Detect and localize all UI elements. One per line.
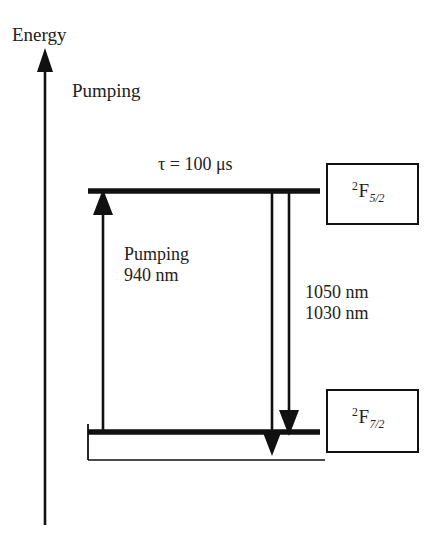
- pump-transition-label-line2: 940 nm: [124, 265, 189, 286]
- emission-wavelengths-label: 1050 nm 1030 nm: [305, 282, 369, 324]
- energy-level-diagram: Energy Pumping τ = 100 μs Pumping 940 nm…: [0, 0, 444, 541]
- emission-wavelength-1030-label: 1030 nm: [305, 303, 369, 324]
- pump-transition-label-line1: Pumping: [124, 244, 189, 264]
- lower-level-term-subscript: 7/2: [369, 418, 384, 431]
- diagram-canvas: [0, 0, 444, 541]
- upper-level-term-symbol: 2F5/2: [352, 180, 385, 202]
- lower-level-term-superscript: 2: [352, 406, 358, 419]
- emission-arrow-1050-head-icon: [262, 430, 282, 456]
- emission-wavelength-1050-label: 1050 nm: [305, 282, 369, 302]
- upper-level-lifetime-label: τ = 100 μs: [158, 154, 233, 175]
- energy-axis-arrowhead-icon: [37, 48, 53, 72]
- lower-level-term-symbol: 2F7/2: [352, 406, 385, 428]
- pumping-title-label: Pumping: [72, 80, 141, 102]
- energy-axis-label: Energy: [12, 24, 67, 46]
- upper-level-term-subscript: 5/2: [369, 192, 384, 205]
- upper-level-term-letter: F: [358, 180, 369, 201]
- lower-level-term-letter: F: [358, 406, 369, 427]
- upper-level-term-superscript: 2: [352, 180, 358, 193]
- pump-transition-label: Pumping 940 nm: [124, 244, 189, 286]
